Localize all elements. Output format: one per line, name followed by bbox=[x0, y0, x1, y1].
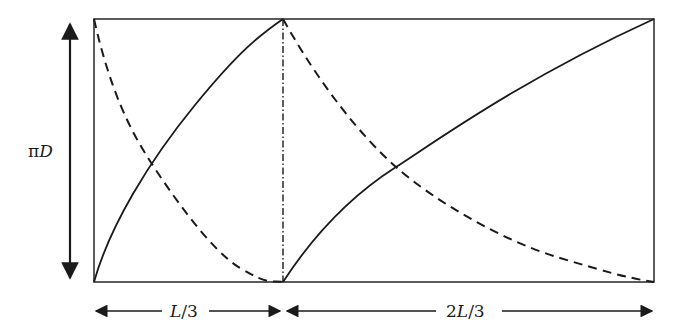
dashed-curve-section1 bbox=[94, 19, 283, 282]
solid-curve-section1 bbox=[94, 19, 283, 282]
solid-curve-section2 bbox=[283, 19, 654, 282]
outer-frame bbox=[94, 19, 654, 282]
segment2-label: 2L/3 bbox=[446, 301, 485, 321]
segment1-label: L/3 bbox=[169, 301, 198, 321]
dashed-curve-section2 bbox=[283, 19, 654, 282]
cylinder-unrolled-diagram: πD L/3 2L/3 bbox=[0, 0, 688, 335]
height-label: πD bbox=[28, 141, 53, 161]
